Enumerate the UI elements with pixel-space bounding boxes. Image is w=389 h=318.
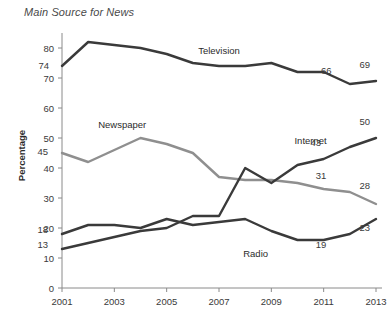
- y-tick-label: 30: [43, 193, 54, 204]
- radio-label: Radio: [243, 248, 268, 259]
- y-tick-label: 50: [43, 133, 54, 144]
- x-tick-label: 2011: [313, 296, 333, 307]
- y-tick-label: 40: [43, 163, 54, 174]
- x-tick-label: 2001: [51, 296, 72, 307]
- value-label-radio-2013: 23: [359, 222, 370, 233]
- value-label-tv-2013: 69: [359, 59, 370, 70]
- series-line-radio: [62, 219, 376, 240]
- value-callouts-group: 746669453128134350181923: [37, 59, 370, 250]
- value-label-news-2011: 31: [316, 170, 327, 181]
- newspaper-label: Newspaper: [98, 119, 146, 130]
- y-tick-label: 0: [49, 283, 54, 294]
- value-label-net-2001: 13: [37, 239, 48, 250]
- axes-group: 0102030405060708020012003200520072009201…: [43, 33, 386, 307]
- value-label-tv-2001: 74: [38, 60, 49, 71]
- value-label-radio-2001: 18: [37, 224, 48, 235]
- x-tick-label: 2003: [104, 296, 125, 307]
- x-tick-label: 2007: [208, 296, 229, 307]
- value-label-tv-2011: 66: [321, 65, 332, 76]
- line-chart-plot: 0102030405060708020012003200520072009201…: [0, 0, 389, 318]
- series-line-internet: [62, 138, 376, 249]
- x-tick-label: 2005: [156, 296, 177, 307]
- value-label-net-2013: 50: [359, 116, 370, 127]
- value-label-news-2001: 45: [37, 146, 48, 157]
- x-tick-label: 2009: [261, 296, 282, 307]
- y-tick-label: 70: [43, 73, 54, 84]
- y-tick-label: 60: [43, 103, 54, 114]
- y-tick-label: 10: [43, 253, 54, 264]
- value-label-radio-2011: 19: [316, 239, 327, 250]
- value-label-news-2013: 28: [359, 180, 370, 191]
- chart-container: Main Source for News Percentage 01020304…: [0, 0, 389, 318]
- series-line-newspaper: [62, 138, 376, 204]
- x-tick-label: 2013: [365, 296, 386, 307]
- y-tick-label: 80: [43, 43, 54, 54]
- television-label: Television: [198, 45, 240, 56]
- value-label-net-2011: 43: [311, 137, 322, 148]
